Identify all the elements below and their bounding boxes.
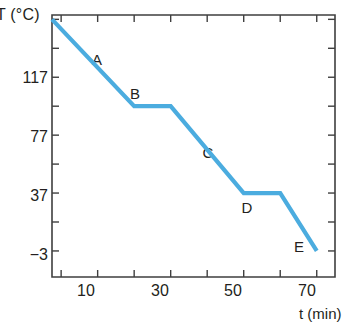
axis-frame: [52, 15, 335, 277]
temperature-time-chart: T (°C) t (min) 117 77 37 −3 10 30 50 70 …: [0, 0, 357, 331]
axis-ticks: [52, 15, 335, 277]
cooling-curve-line: [52, 19, 317, 251]
plot-area: [0, 0, 357, 331]
